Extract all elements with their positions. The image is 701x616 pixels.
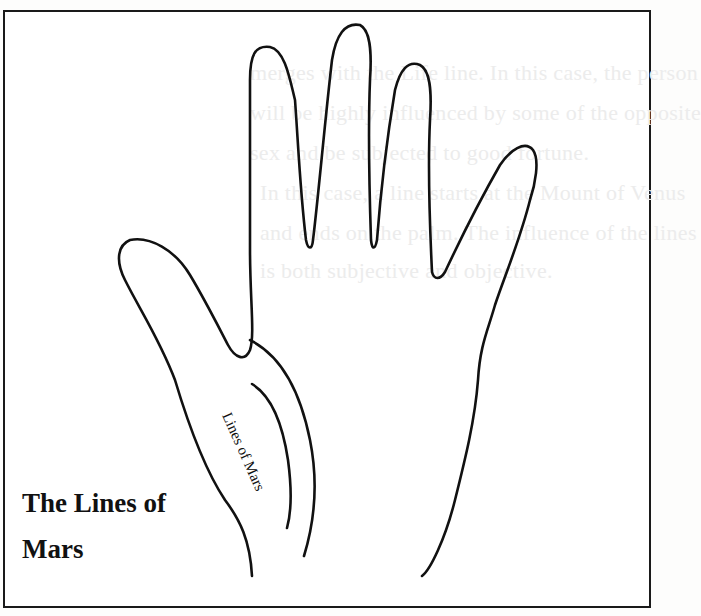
caption-line-1: The Lines of <box>22 480 222 526</box>
figure-caption: The Lines of Mars <box>22 480 222 572</box>
line-of-mars-inner <box>252 384 291 528</box>
caption-line-2: Mars <box>22 526 222 572</box>
line-of-mars-outer <box>250 340 315 556</box>
